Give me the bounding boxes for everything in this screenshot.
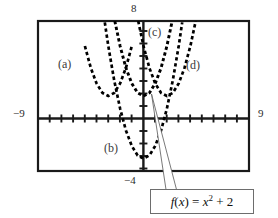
formula-constant: 2 bbox=[227, 194, 234, 209]
curve-label-d: (d) bbox=[186, 59, 200, 71]
axis-label-ymin: −4 bbox=[124, 175, 136, 186]
axis-label-xmin: −9 bbox=[13, 108, 25, 119]
graph-canvas bbox=[0, 0, 278, 218]
axis-label-xmax: 9 bbox=[258, 108, 264, 119]
formula-equals: = bbox=[192, 194, 199, 209]
curve-label-a: (a) bbox=[58, 58, 71, 70]
formula-plus: + bbox=[216, 194, 223, 209]
curve-label-b: (b) bbox=[104, 142, 118, 154]
formula-text: f(x) = x2 + 2 bbox=[171, 193, 234, 210]
curve-label-c: (c) bbox=[148, 26, 161, 38]
figure-container: 8 −9 9 −4 (a) (b) (c) (d) f(x) = x2 + 2 bbox=[0, 0, 278, 218]
formula-callout-box: f(x) = x2 + 2 bbox=[150, 189, 254, 214]
axis-label-ymax: 8 bbox=[131, 3, 137, 14]
formula-exponent: 2 bbox=[208, 193, 213, 203]
